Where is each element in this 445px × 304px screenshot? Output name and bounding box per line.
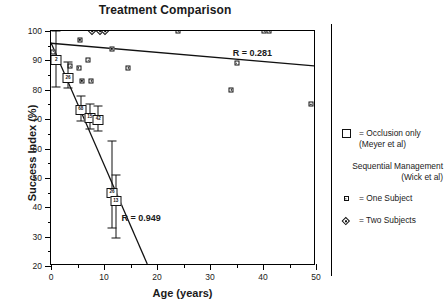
x-tick	[210, 264, 211, 270]
y-tick	[45, 90, 51, 91]
data-point-one-subject	[109, 46, 114, 51]
x-minor-tick	[290, 264, 291, 268]
y-minor-tick	[48, 46, 52, 47]
legend: = Occlusion only (Meyer et al) Sequentia…	[338, 128, 445, 226]
legend-sequential-heading: Sequential Management (Wick et al)	[338, 161, 445, 183]
x-tick	[104, 264, 105, 270]
y-minor-tick	[48, 75, 52, 76]
x-minor-tick	[184, 264, 185, 268]
correlation-annotation: R = 0.949	[121, 213, 160, 223]
x-tick	[157, 264, 158, 270]
y-minor-tick	[48, 134, 52, 135]
x-minor-tick	[78, 264, 79, 268]
error-bar-cap	[63, 61, 72, 62]
y-axis-title: Success Index (%)	[26, 58, 38, 248]
error-bar-cap	[52, 31, 61, 32]
legend-occlusion-label: = Occlusion only	[359, 128, 445, 139]
legend-large-square-icon	[338, 128, 354, 139]
chart-figure: Treatment Comparison 2266815422613R = 0.…	[0, 0, 445, 304]
plot-area: 2266815422613R = 0.281R = 0.949 20304050…	[50, 30, 315, 265]
y-tick	[45, 119, 51, 120]
y-tick-label: 100	[28, 26, 42, 36]
legend-one-subject-label: = One Subject	[359, 193, 445, 204]
error-bar	[111, 141, 112, 228]
data-point-occlusion: 42	[93, 115, 104, 125]
data-point-one-subject	[126, 65, 131, 70]
x-tick	[263, 264, 264, 270]
x-tick-label: 20	[152, 272, 161, 282]
data-point-one-subject	[308, 102, 313, 107]
error-bar	[115, 175, 116, 238]
data-point-one-subject	[229, 87, 234, 92]
legend-small-square-icon	[338, 193, 354, 204]
y-minor-tick	[48, 163, 52, 164]
error-bar-cap	[107, 141, 116, 142]
y-tick	[45, 207, 51, 208]
data-point-one-subject	[79, 78, 84, 83]
x-tick-label: 10	[99, 272, 108, 282]
data-point-one-subject	[176, 31, 181, 34]
legend-sequential-line2: (Wick et al)	[401, 172, 443, 182]
chart-title: Treatment Comparison	[0, 3, 330, 17]
error-bar-cap	[76, 95, 85, 96]
x-tick	[51, 264, 52, 270]
correlation-annotation: R = 0.281	[233, 48, 272, 58]
legend-sequential-line1: Sequential Management	[352, 161, 443, 171]
legend-item-two-subjects: = Two Subjects	[338, 215, 445, 226]
y-tick	[45, 237, 51, 238]
error-bar-cap	[94, 130, 103, 131]
data-point-one-subject	[267, 31, 272, 34]
y-minor-tick	[48, 104, 52, 105]
error-bar-cap	[52, 86, 61, 87]
y-minor-tick	[48, 251, 52, 252]
data-point-one-subject	[262, 31, 267, 34]
error-bar-cap	[94, 105, 103, 106]
x-tick-label: 40	[258, 272, 267, 282]
y-tick	[45, 178, 51, 179]
data-point-one-subject	[234, 61, 239, 66]
x-tick-label: 0	[49, 272, 54, 282]
x-axis-title: Age (years)	[50, 287, 315, 299]
legend-two-subjects-label: = Two Subjects	[359, 215, 445, 226]
legend-divider	[331, 24, 332, 276]
x-tick	[316, 264, 317, 270]
plot-inner: 2266815422613R = 0.281R = 0.949	[51, 31, 314, 264]
data-point-occlusion: 13	[110, 196, 121, 206]
error-bar-cap	[111, 238, 120, 239]
legend-occlusion-source: (Meyer et al)	[338, 139, 445, 150]
legend-diamond-icon	[338, 215, 354, 226]
data-point-one-subject	[76, 65, 81, 70]
y-minor-tick	[48, 222, 52, 223]
y-tick-label: 20	[33, 261, 42, 271]
data-point-one-subject	[77, 37, 82, 42]
error-bar-cap	[111, 174, 120, 175]
y-tick	[45, 31, 51, 32]
data-point-one-subject	[86, 58, 91, 63]
data-point-occlusion: 2	[51, 55, 62, 65]
x-tick-label: 30	[205, 272, 214, 282]
y-tick	[45, 149, 51, 150]
legend-item-occlusion: = Occlusion only (Meyer et al)	[338, 128, 445, 150]
legend-item-one-subject: = One Subject	[338, 193, 445, 204]
error-bar-cap	[63, 88, 72, 89]
trendline-layer	[51, 31, 314, 264]
y-minor-tick	[48, 193, 52, 194]
data-point-occlusion: 26	[62, 73, 73, 83]
x-minor-tick	[131, 264, 132, 268]
x-minor-tick	[237, 264, 238, 268]
x-tick-label: 50	[311, 272, 320, 282]
data-point-one-subject	[89, 78, 94, 83]
